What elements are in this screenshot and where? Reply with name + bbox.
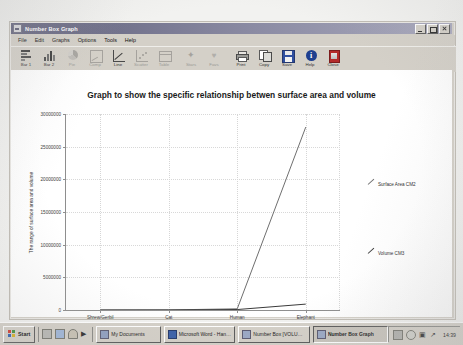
line-chart-icon bbox=[111, 49, 126, 62]
toolbar-label: Stars bbox=[186, 62, 196, 67]
chart-title: Graph to show the specific relationship … bbox=[11, 90, 452, 100]
taskbar: Start ▶ My Documents Microsoft Word - Ha… bbox=[0, 322, 463, 345]
bar-chart-horizontal-icon bbox=[19, 49, 34, 62]
menu-item-help[interactable]: Help bbox=[121, 37, 140, 43]
word-icon bbox=[168, 330, 177, 339]
taskbar-item-label: Number Box Graph bbox=[328, 331, 374, 337]
menu-item-file[interactable]: File bbox=[14, 37, 31, 43]
plot-area: 0500000010000000150000002000000025000000… bbox=[65, 114, 340, 311]
x-axis-tick bbox=[237, 310, 238, 313]
start-button[interactable]: Start bbox=[3, 326, 35, 343]
x-axis-tick bbox=[100, 310, 101, 313]
toolbar-button-print[interactable]: Print bbox=[230, 48, 252, 70]
toolbar-button-bar1[interactable]: Bar 1 bbox=[15, 48, 37, 70]
toolbar-button-line[interactable]: Line bbox=[107, 48, 129, 70]
bar-chart-vertical-icon bbox=[42, 49, 57, 62]
menu-item-graphs[interactable]: Graphs bbox=[48, 37, 74, 43]
toolbar-label: Line bbox=[114, 62, 122, 67]
taskbar-item-my-documents[interactable]: My Documents bbox=[96, 326, 161, 343]
info-circle-icon: i bbox=[303, 49, 318, 62]
y-axis-title: The range of surface area and volume bbox=[27, 114, 37, 310]
show-desktop-icon[interactable] bbox=[42, 329, 52, 339]
heart-icon: ♥ bbox=[207, 49, 222, 62]
system-tray: ▣ ↗ 14:39 bbox=[388, 326, 460, 342]
close-button[interactable] bbox=[439, 24, 450, 34]
compare-chart-icon bbox=[88, 49, 103, 62]
x-axis-tick-label: Human bbox=[230, 315, 245, 320]
menu-item-edit[interactable]: Edit bbox=[31, 37, 48, 43]
minimize-button[interactable] bbox=[415, 24, 426, 34]
chart-canvas: Graph to show the specific relationship … bbox=[11, 70, 452, 317]
x-axis-tick-label: Shrew/Gerbil bbox=[87, 315, 114, 320]
copy-pages-icon bbox=[257, 49, 272, 62]
chart-window-icon bbox=[13, 24, 22, 33]
y-axis-tick-label: 0 bbox=[58, 308, 61, 313]
taskbar-item-label: Number Box [VOLUME1 N... bbox=[253, 331, 306, 337]
legend-entry-volume[interactable]: Volume CM3 bbox=[368, 250, 404, 256]
window-controls bbox=[415, 24, 450, 34]
toolbar-button-bar2[interactable]: Bar 2 bbox=[38, 48, 60, 70]
outlook-mail-icon[interactable] bbox=[68, 329, 78, 339]
y-axis-tick-label: 20000000 bbox=[41, 177, 61, 182]
toolbar-button-table[interactable]: Table bbox=[153, 48, 175, 70]
toolbar-label: Bar 1 bbox=[21, 62, 32, 67]
scatter-plot-icon bbox=[134, 49, 149, 62]
number-box-graph-icon bbox=[317, 330, 326, 339]
menu-item-tools[interactable]: Tools bbox=[100, 37, 121, 43]
toolbar-label: Copy bbox=[259, 62, 269, 67]
legend-line-marker-icon bbox=[368, 181, 375, 187]
menu-item-options[interactable]: Options bbox=[74, 37, 101, 43]
toolbar-button-copy[interactable]: Copy bbox=[253, 48, 275, 70]
x-axis-tick-label: Elephant bbox=[297, 315, 315, 320]
y-axis-tick-label: 30000000 bbox=[41, 112, 61, 117]
media-player-icon[interactable]: ▶ bbox=[81, 330, 89, 338]
series-line-surface-area bbox=[100, 127, 306, 310]
legend-label: Volume CM3 bbox=[378, 251, 404, 256]
application-window: Number Box Graph File Edit Graphs Option… bbox=[9, 21, 456, 320]
y-axis-tick-label: 10000000 bbox=[41, 242, 61, 247]
pie-chart-icon bbox=[65, 49, 80, 62]
volume-icon[interactable] bbox=[406, 330, 416, 340]
taskbar-item-label: My Documents bbox=[111, 331, 144, 337]
printer-icon bbox=[234, 49, 249, 62]
toolbar-button-favourites[interactable]: ♥ Favs bbox=[203, 48, 225, 70]
toolbar-button-save[interactable]: Save bbox=[276, 48, 298, 70]
menu-bar: File Edit Graphs Options Tools Help bbox=[11, 35, 455, 45]
y-axis-tick-label: 25000000 bbox=[41, 144, 61, 149]
y-axis-title-text: The range of surface area and volume bbox=[30, 171, 35, 252]
printer-tray-icon[interactable]: ▣ bbox=[419, 331, 427, 339]
taskbar-item-label: Microsoft Word - Handling bbox=[179, 331, 232, 337]
table-icon bbox=[157, 49, 172, 62]
title-bar[interactable]: Number Box Graph bbox=[11, 23, 452, 34]
toolbar: Bar 1 Bar 2 Pie Comp Line bbox=[11, 46, 456, 72]
internet-explorer-icon[interactable] bbox=[55, 329, 65, 339]
start-button-label: Start bbox=[18, 331, 30, 337]
floppy-disk-icon bbox=[280, 49, 295, 62]
toolbar-button-stars[interactable]: ✦ Stars bbox=[180, 48, 202, 70]
toolbar-label: Print bbox=[236, 62, 245, 67]
toolbar-button-pie[interactable]: Pie bbox=[61, 48, 83, 70]
toolbar-button-close[interactable]: Close bbox=[322, 48, 344, 70]
toolbar-button-help[interactable]: i Help bbox=[299, 48, 321, 70]
door-exit-icon bbox=[326, 49, 341, 62]
toolbar-button-scatter[interactable]: Scatter bbox=[130, 48, 152, 70]
y-axis-tick-label: 5000000 bbox=[43, 275, 61, 280]
keyboard-layout-icon[interactable]: ↗ bbox=[430, 331, 438, 339]
taskbar-item-number-box[interactable]: Number Box [VOLUME1 N... bbox=[238, 326, 310, 343]
toolbar-label: Favs bbox=[209, 62, 219, 67]
star-icon: ✦ bbox=[184, 49, 199, 62]
network-icon[interactable] bbox=[393, 330, 403, 340]
x-axis-tick bbox=[169, 310, 170, 313]
toolbar-button-comp[interactable]: Comp bbox=[84, 48, 106, 70]
maximize-button[interactable] bbox=[427, 24, 438, 34]
desktop-background: Number Box Graph File Edit Graphs Option… bbox=[0, 0, 463, 345]
folder-icon bbox=[100, 330, 109, 339]
toolbar-label: Table bbox=[159, 62, 170, 67]
legend-line-marker-icon bbox=[368, 250, 375, 256]
taskbar-item-number-box-graph[interactable]: Number Box Graph bbox=[313, 326, 388, 343]
taskbar-item-microsoft-word[interactable]: Microsoft Word - Handling bbox=[164, 326, 236, 343]
legend-label: Surface Area CM2 bbox=[378, 182, 416, 187]
quick-launch-bar: ▶ bbox=[38, 327, 93, 342]
taskbar-clock: 14:39 bbox=[443, 332, 456, 338]
legend-entry-surface-area[interactable]: Surface Area CM2 bbox=[368, 181, 416, 187]
